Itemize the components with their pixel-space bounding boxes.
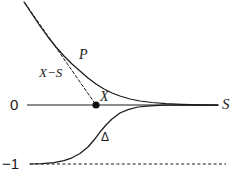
axis-origin-label: 0 (10, 97, 18, 112)
curve-p-path (24, 2, 218, 105)
point-x-marker (92, 101, 99, 108)
curve-delta-label: Δ (101, 131, 109, 143)
chord-x-minus-s-label: X−S (39, 66, 62, 79)
axis-s-label: S (222, 97, 230, 112)
curve-p-label: P (79, 48, 88, 62)
axis-minus-one-label: −1 (2, 156, 19, 171)
curve-delta-path (30, 105, 218, 164)
figure-canvas (0, 0, 240, 179)
point-x-label: X (100, 90, 109, 104)
figure-container: 0 S −1 P X−S X Δ (0, 0, 240, 179)
